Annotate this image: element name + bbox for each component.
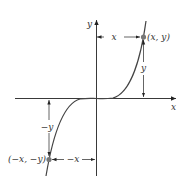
dimension-label-x-top: x (111, 32, 116, 42)
point-label-x-y: (x, y) (147, 32, 170, 42)
point-label-neg-x-neg-y: (−x, −y) (8, 154, 46, 164)
dimension-label-y-right: y (140, 63, 147, 73)
y-axis-label: y (86, 19, 93, 29)
dimension-label-x-bottom: −x (67, 154, 80, 164)
dimension-label-y-left: −y (41, 122, 55, 132)
x-axis-label: x (171, 102, 176, 112)
odd-function-diagram: x y −y −x (x, y) (−x, −y) y x (0, 0, 189, 190)
point-neg-x-neg-y (46, 157, 51, 162)
point-x-y (141, 34, 146, 39)
